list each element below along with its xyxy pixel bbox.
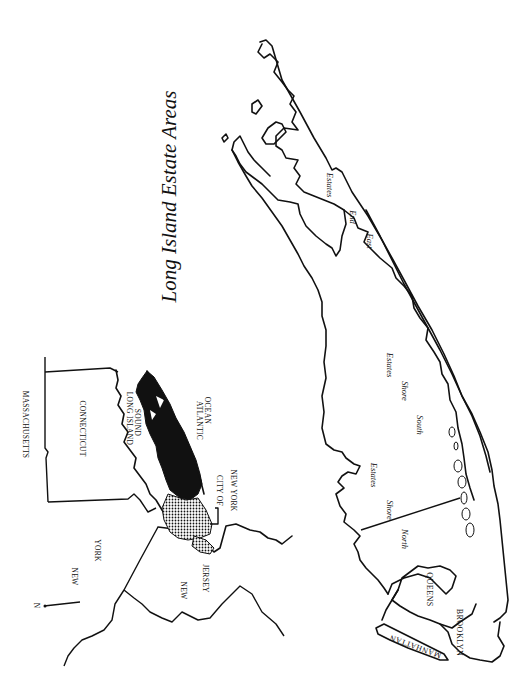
label-brooklyn: BROOKLYN — [455, 609, 464, 657]
north-fork-coastline — [232, 44, 346, 256]
label-connecticut: CONNECTICUT — [78, 400, 87, 456]
south-fork-coastline — [232, 150, 388, 594]
barrier-beach-inner — [366, 210, 490, 472]
label-queens: QUEENS — [425, 572, 434, 607]
south-shore-bay-coast — [344, 210, 474, 500]
label-new-jersey-1: NEW — [179, 582, 188, 600]
label-east-end-end: End — [348, 210, 358, 224]
main-map — [222, 40, 508, 662]
label-city-of-ny-2: NEW YORK — [229, 469, 238, 511]
label-new-jersey-2: JERSEY — [201, 564, 210, 592]
label-new-york-1: NEW — [70, 568, 79, 586]
connecticut-newyork-border — [48, 494, 156, 512]
newjersey-pennsylvania-border — [124, 586, 284, 636]
plum-island — [222, 134, 228, 142]
label-long-island-sound-2: SOUND — [133, 409, 142, 436]
label-south-shore-south: South — [415, 415, 425, 434]
shelter-island — [262, 122, 286, 144]
north-arrow-icon — [44, 602, 80, 606]
label-north-shore-estates: Estates — [369, 463, 379, 488]
staten-island-shape — [192, 536, 214, 554]
label-massachusetts: MASSACHUSETTS — [21, 391, 30, 459]
newyork-newjersey-border — [64, 527, 158, 666]
label-south-shore-shore: Shore — [400, 381, 410, 401]
label-north-shore-shore: Shore — [385, 500, 395, 520]
map-title: Long Island Estate Areas — [157, 91, 182, 303]
label-east-end-east: East — [365, 233, 375, 248]
gardiners-island — [252, 100, 262, 114]
bronx-outline — [382, 590, 398, 620]
long-island-ocean-coast — [260, 40, 508, 622]
label-south-shore-estates: Estates — [385, 353, 395, 378]
label-north-shore-north: North — [400, 529, 410, 549]
label-north-arrow: N — [32, 603, 41, 609]
map-canvas — [0, 0, 518, 692]
long-island-shape — [136, 371, 202, 500]
north-south-shore-divider — [361, 498, 460, 530]
label-atlantic-ocean-2: OCEAN — [203, 397, 212, 424]
label-city-of-ny-1: CITY OF — [215, 475, 224, 506]
city-of-new-york-shape — [162, 494, 212, 540]
massachusetts-border — [45, 357, 48, 502]
connecticut-north-border — [45, 368, 118, 372]
label-east-end-estates: Estates — [325, 173, 335, 198]
label-new-york-2: YORK — [93, 539, 102, 561]
